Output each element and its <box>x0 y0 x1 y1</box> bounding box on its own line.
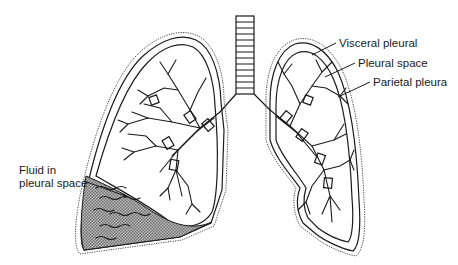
label-fluid-line2: pleural space <box>19 177 87 190</box>
label-parietal-pleura: Parietal pleura <box>373 76 447 89</box>
right-lung <box>76 33 229 254</box>
label-visceral-pleura: Visceral pleural <box>339 37 417 50</box>
visceral-leader <box>312 43 336 55</box>
label-pleural-space: Pleural space <box>358 57 428 70</box>
lung-pleura-diagram: Visceral pleural Pleural space Parietal … <box>0 0 458 265</box>
trachea <box>220 16 270 112</box>
left-lung <box>266 38 365 256</box>
label-fluid-line1: Fluid in <box>19 164 56 177</box>
